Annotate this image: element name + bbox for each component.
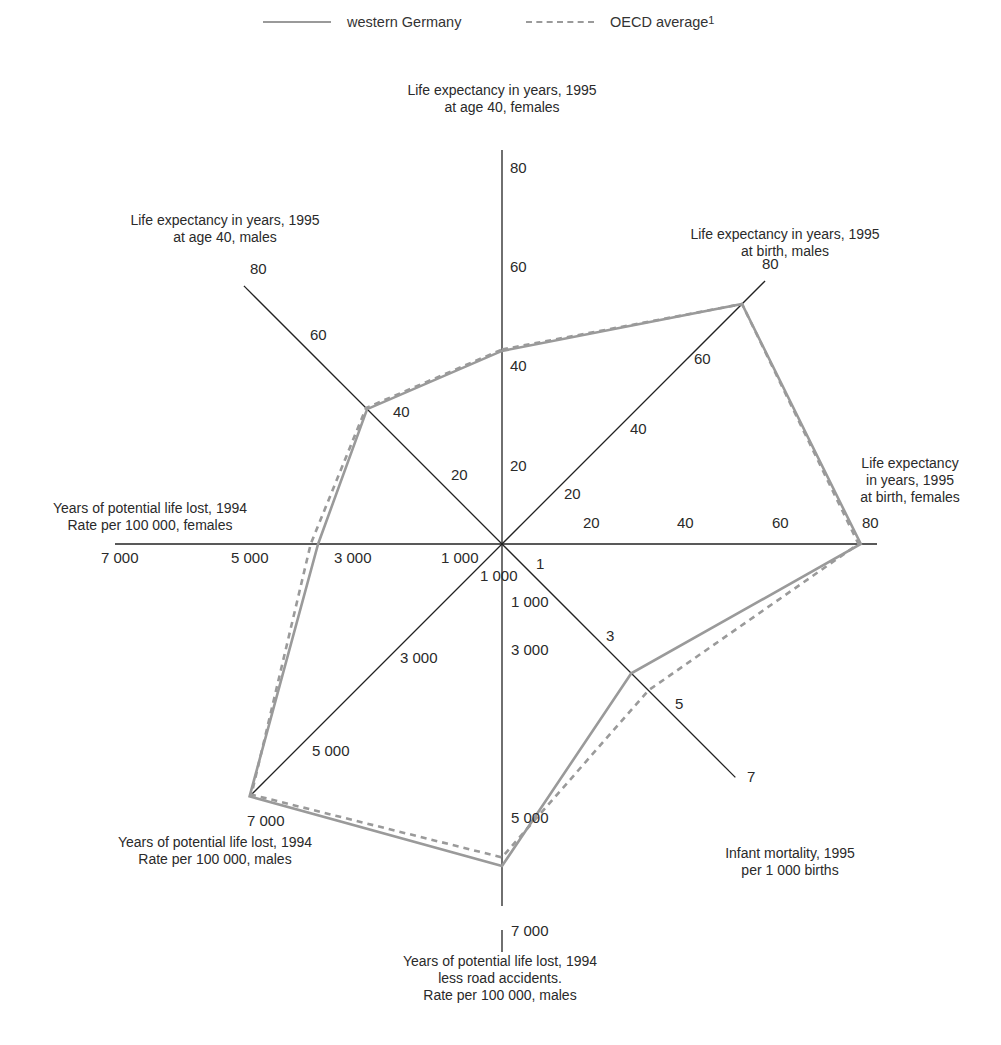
tick-label: 3	[606, 628, 614, 644]
tick-label: 20	[583, 515, 600, 531]
tick-label: 7 000	[511, 923, 549, 939]
tick-label: 40	[630, 421, 647, 437]
axis-line	[251, 544, 502, 795]
tick-label: 5 000	[312, 743, 350, 759]
tick-label: 80	[762, 256, 779, 272]
axis-title-ypll-less-road-accidents: Years of potential life lost, 1994less r…	[350, 953, 650, 1004]
tick-label: 80	[862, 515, 879, 531]
axis-title-le40-males: Life expectancy in years, 1995at age 40,…	[100, 212, 350, 246]
tick-label: 1 000	[511, 594, 549, 610]
axis-title-le-birth-females: Life expectancyin years, 1995at birth, f…	[845, 455, 975, 506]
tick-label: 3 000	[511, 642, 549, 658]
tick-label: 40	[510, 358, 527, 374]
axis-title-ypll-females: Years of potential life lost, 1994Rate p…	[30, 500, 270, 534]
tick-label: 5 000	[231, 550, 269, 566]
axis-title-infant-mortality: Infant mortality, 1995per 1 000 births	[700, 845, 880, 879]
tick-label: 1 000	[441, 550, 479, 566]
tick-label: 20	[564, 486, 581, 502]
tick-label: 20	[510, 458, 527, 474]
tick-label: 5 000	[511, 810, 549, 826]
series-western-germany	[250, 304, 861, 866]
tick-label: 20	[451, 467, 468, 483]
tick-label: 80	[510, 160, 527, 176]
tick-label: 60	[772, 515, 789, 531]
tick-label: 5	[675, 696, 683, 712]
axis-line	[502, 281, 765, 544]
axis-title-ypll-males: Years of potential life lost, 1994Rate p…	[90, 834, 340, 868]
tick-label: 40	[393, 404, 410, 420]
axis-title-le-birth-males: Life expectancy in years, 1995at birth, …	[660, 226, 910, 260]
tick-label: 80	[250, 261, 267, 277]
tick-label: 3 000	[400, 650, 438, 666]
axis-line	[244, 286, 502, 544]
axis-title-le40-females: Life expectancy in years, 1995at age 40,…	[360, 82, 644, 116]
tick-label: 60	[694, 351, 711, 367]
tick-label: 40	[677, 515, 694, 531]
tick-label: 7 000	[101, 550, 139, 566]
tick-label: 3 000	[334, 550, 372, 566]
series-oecd-average	[251, 304, 858, 857]
tick-label: 1 000	[480, 568, 518, 584]
tick-label: 1	[536, 556, 544, 572]
tick-label: 7 000	[247, 813, 285, 829]
tick-label: 60	[310, 327, 327, 343]
axis-line	[502, 544, 735, 777]
tick-label: 60	[510, 259, 527, 275]
tick-label: 7	[747, 769, 755, 785]
